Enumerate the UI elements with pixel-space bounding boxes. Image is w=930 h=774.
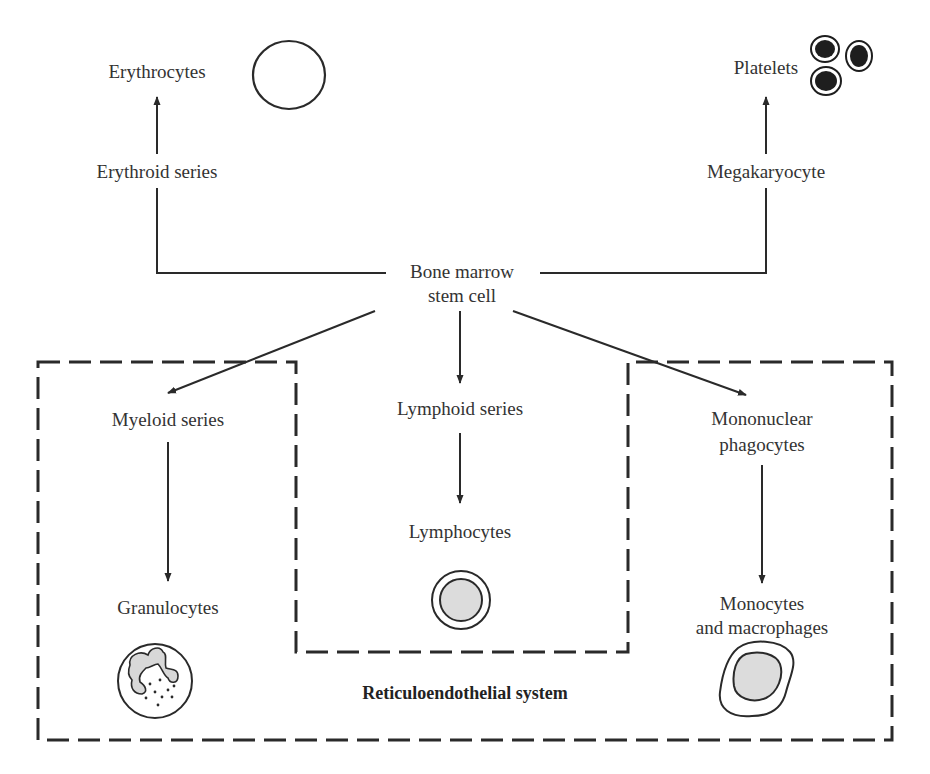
label-myeloid-series: Myeloid series — [112, 408, 224, 432]
label-platelets: Platelets — [734, 56, 798, 80]
label-reticuloendothelial-system: Reticuloendothelial system — [362, 681, 567, 705]
label-lymphoid-series: Lymphoid series — [397, 397, 523, 421]
label-granulocytes: Granulocytes — [117, 596, 218, 620]
label-stem-cell: stem cell — [428, 284, 496, 308]
label-bone-marrow: Bone marrow — [410, 260, 514, 284]
label-monocytes: Monocytes — [720, 592, 804, 616]
upper-left-connector — [157, 188, 386, 273]
label-mononuclear: Mononuclear — [711, 407, 812, 431]
label-megakaryocyte: Megakaryocyte — [707, 160, 825, 184]
lymphocyte-icon — [432, 571, 490, 629]
connector-lines — [0, 0, 930, 774]
granulocyte-icon — [118, 644, 192, 718]
label-erythrocytes: Erythrocytes — [108, 60, 205, 84]
upper-right-connector — [540, 188, 766, 273]
label-erythroid-series: Erythroid series — [97, 160, 218, 184]
label-phagocytes: phagocytes — [719, 433, 804, 457]
platelets-icon — [811, 36, 872, 95]
erythrocyte-icon — [253, 41, 325, 109]
macrophage-icon — [720, 642, 794, 717]
label-lymphocytes: Lymphocytes — [409, 520, 511, 544]
arrow-to-myeloid — [168, 311, 375, 393]
label-and-macrophages: and macrophages — [696, 616, 828, 640]
